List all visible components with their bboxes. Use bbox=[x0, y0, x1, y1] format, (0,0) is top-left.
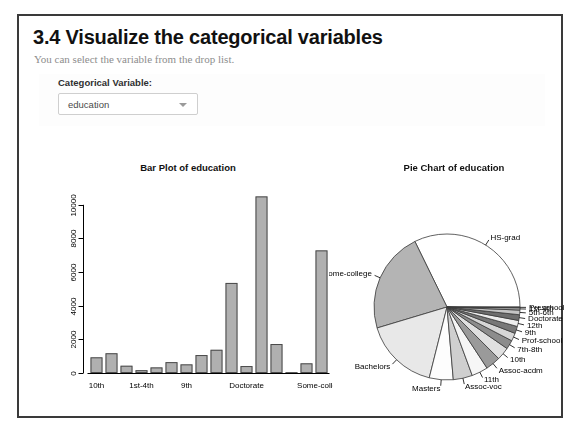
categorical-variable-label: Categorical Variable: bbox=[58, 77, 152, 88]
categorical-variable-select[interactable]: education bbox=[58, 93, 198, 115]
page-subtitle: You can select the variable from the dro… bbox=[34, 53, 234, 65]
screenshot-root: 3.4 Visualize the categorical variables … bbox=[0, 0, 582, 441]
categorical-variable-control: Categorical Variable: education bbox=[39, 74, 545, 126]
categorical-variable-selected-value: education bbox=[68, 99, 109, 110]
content-panel: 3.4 Visualize the categorical variables … bbox=[17, 14, 563, 418]
page-title: 3.4 Visualize the categorical variables bbox=[33, 26, 383, 49]
bar-plot-canvas bbox=[43, 162, 333, 412]
chevron-down-icon bbox=[179, 103, 187, 107]
bar-plot: Bar Plot of education bbox=[43, 162, 333, 412]
pie-chart-canvas bbox=[329, 162, 579, 412]
pie-chart: Pie Chart of education bbox=[329, 162, 579, 412]
